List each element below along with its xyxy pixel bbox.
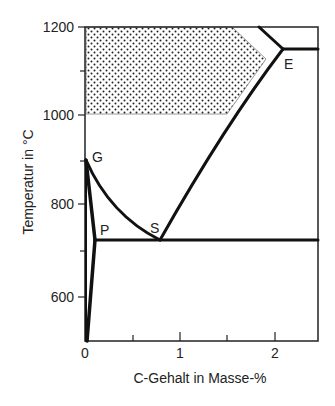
y-axis-ticks xyxy=(78,27,85,297)
x-tick-label: 1 xyxy=(176,345,184,361)
point-label-p: P xyxy=(100,222,109,238)
y-tick-label: 600 xyxy=(51,289,75,305)
y-tick-label: 1000 xyxy=(43,107,74,123)
x-tick-label: 0 xyxy=(81,345,89,361)
line-p-origin xyxy=(87,240,95,341)
line-solidus xyxy=(259,27,283,49)
point-label-s: S xyxy=(150,220,159,236)
point-label-e: E xyxy=(284,56,293,72)
line-gs xyxy=(86,160,160,240)
point-label-g: G xyxy=(92,149,103,165)
y-axis-title: Temperatur in °C xyxy=(20,129,36,234)
x-axis-ticks xyxy=(133,332,275,341)
y-tick-label: 800 xyxy=(51,196,75,212)
x-axis-title: C-Gehalt in Masse-% xyxy=(133,370,266,386)
dotted-region xyxy=(86,27,266,114)
x-tick-label: 2 xyxy=(271,345,279,361)
y-tick-label: 1200 xyxy=(43,19,74,35)
iron-carbon-phase-diagram: G P S E 1200 1000 800 600 0 1 2 C-Gehalt… xyxy=(0,0,335,406)
